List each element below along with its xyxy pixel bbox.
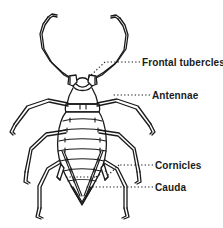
- leg-hind-left: [36, 160, 61, 219]
- cornicle-right: [101, 164, 108, 180]
- aphid-diagram-figure: Frontal tubercles Antennae Cornicles Cau…: [0, 0, 223, 228]
- aphid-line-drawing: [0, 0, 223, 228]
- antenna-left: [40, 14, 75, 81]
- leg-hind-right: [104, 160, 129, 219]
- label-cornicles: Cornicles: [155, 160, 201, 171]
- thorax: [65, 88, 100, 112]
- label-antennae: Antennae: [152, 90, 198, 101]
- label-cauda: Cauda: [155, 182, 186, 193]
- label-frontal-tubercles: Frontal tubercles: [142, 57, 223, 68]
- antenna-right: [90, 15, 128, 81]
- cornicle-left: [57, 164, 64, 180]
